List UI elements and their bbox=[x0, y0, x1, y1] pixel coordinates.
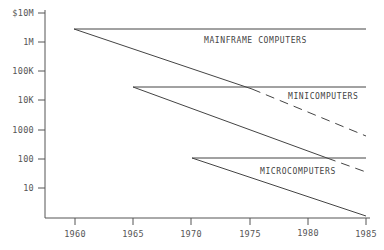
y-tick-label: 1000 bbox=[0, 125, 34, 135]
x-tick-label: 1975 bbox=[230, 229, 270, 239]
x-tick-label: 1980 bbox=[288, 228, 328, 238]
x-tick-label: 1970 bbox=[171, 229, 211, 239]
label-minicomputers: MINICOMPUTERS bbox=[288, 92, 358, 101]
label-microcomputers: MICROCOMPUTERS bbox=[260, 167, 336, 176]
chart-plot bbox=[0, 0, 384, 250]
x-tick-label: 1960 bbox=[55, 229, 95, 239]
y-tick-label: 10K bbox=[0, 95, 34, 105]
x-tick-label: 1985 bbox=[346, 229, 384, 239]
series-mainframe bbox=[74, 29, 366, 136]
x-tick-label: 1965 bbox=[113, 229, 153, 239]
label-mainframe: MAINFRAME COMPUTERS bbox=[204, 36, 307, 45]
y-tick-label: $10M bbox=[0, 8, 34, 18]
y-tick-label: 10 bbox=[0, 183, 34, 193]
y-tick-label: 100 bbox=[0, 154, 34, 164]
y-tick-label: 1M bbox=[0, 37, 34, 47]
y-tick-label: 100K bbox=[0, 66, 34, 76]
